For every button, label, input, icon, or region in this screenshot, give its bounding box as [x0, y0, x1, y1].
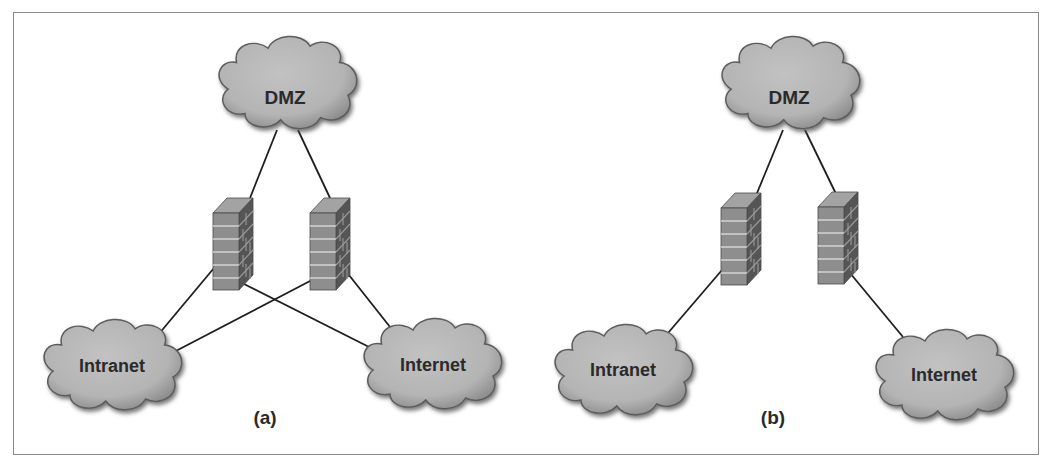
link-firewall1-intranet: [668, 270, 722, 333]
network-diagram: DMZ Intranet Internet (a) DMZ: [0, 0, 1051, 470]
link-dmz-firewall1: [250, 130, 277, 198]
link-firewall1-intranet: [158, 268, 214, 335]
panel-a-caption: (a): [253, 407, 276, 428]
dmz-label: DMZ: [768, 87, 810, 108]
panel-b-links: [668, 130, 903, 337]
firewall-icon: [721, 193, 761, 285]
dmz-cloud: [219, 36, 357, 128]
link-firewall2-internet: [850, 273, 903, 337]
link-dmz-firewall2: [805, 130, 838, 198]
firewall-icon: [818, 192, 858, 284]
panel-a: DMZ Intranet Internet (a): [44, 36, 502, 428]
panel-a-links: [158, 130, 394, 353]
internet-label: Internet: [400, 355, 466, 375]
dmz-label: DMZ: [264, 87, 306, 108]
link-firewall2-internet: [345, 270, 394, 332]
link-firewall1-internet: [240, 282, 375, 350]
link-dmz-firewall2: [298, 130, 330, 198]
link-dmz-firewall1: [755, 130, 783, 198]
panel-b-caption: (b): [761, 407, 785, 428]
dmz-cloud: [722, 36, 860, 128]
internet-label: Internet: [911, 365, 977, 385]
panel-b: DMZ Intranet Internet (b): [555, 36, 1014, 428]
intranet-label: Intranet: [590, 360, 656, 380]
intranet-label: Intranet: [79, 356, 145, 376]
firewall-icon: [213, 198, 253, 290]
link-firewall2-intranet: [172, 280, 312, 353]
firewall-icon: [310, 198, 350, 290]
